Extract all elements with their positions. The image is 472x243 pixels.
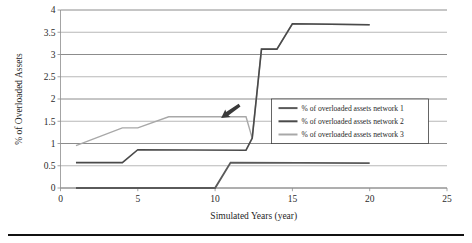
x-tick-label-2: 10 bbox=[210, 194, 220, 204]
y-tick-label-4: 2 bbox=[51, 94, 56, 104]
y-tick-label-0: 0 bbox=[51, 183, 56, 193]
arrow-pointer-annotation bbox=[219, 101, 243, 121]
y-tick-label-6: 3 bbox=[51, 50, 56, 60]
y-tick-label-1: 0.5 bbox=[44, 161, 56, 171]
legend-label-1: % of overloaded assets network 1 bbox=[302, 104, 404, 113]
x-tick-labels-group: 0510152025 bbox=[58, 194, 452, 204]
y-tick-label-7: 3.5 bbox=[44, 28, 56, 38]
legend-label-2: % of overloaded assets network 2 bbox=[302, 117, 404, 126]
x-tick-label-1: 5 bbox=[135, 194, 140, 204]
x-tick-label-3: 15 bbox=[288, 194, 298, 204]
legend-label-3: % of overloaded assets network 3 bbox=[302, 130, 404, 139]
y-axis-title: % of Overloaded Assets bbox=[14, 53, 24, 145]
chart-figure: 00.511.522.533.54 0510152025 Simulated Y… bbox=[0, 0, 472, 243]
x-tick-label-4: 20 bbox=[365, 194, 375, 204]
arrow-glyph bbox=[219, 101, 243, 121]
y-tick-labels-group: 00.511.522.533.54 bbox=[44, 5, 61, 193]
x-tick-label-0: 0 bbox=[58, 194, 63, 204]
x-axis-title: Simulated Years (year) bbox=[210, 211, 297, 222]
annotations-group bbox=[219, 101, 243, 121]
series-line-1 bbox=[76, 163, 370, 188]
y-tick-label-5: 2.5 bbox=[44, 72, 56, 82]
y-tick-label-8: 4 bbox=[51, 5, 56, 15]
y-tick-label-3: 1.5 bbox=[44, 117, 56, 127]
x-tick-label-5: 25 bbox=[442, 194, 452, 204]
y-tick-label-2: 1 bbox=[51, 139, 56, 149]
chart-legend: % of overloaded assets network 1% of ove… bbox=[272, 99, 429, 144]
chart-canvas: 00.511.522.533.54 0510152025 Simulated Y… bbox=[0, 0, 472, 243]
